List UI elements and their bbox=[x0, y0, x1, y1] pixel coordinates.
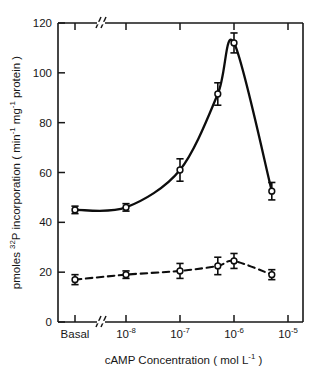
data-point-marker bbox=[123, 204, 129, 210]
data-point-marker bbox=[72, 207, 78, 213]
data-point-marker bbox=[123, 272, 129, 278]
y-tick-label: 80 bbox=[39, 117, 52, 129]
data-point-marker bbox=[231, 40, 237, 46]
y-tick-label: 100 bbox=[33, 67, 52, 79]
data-point-marker bbox=[215, 263, 221, 269]
chart-figure: 020406080100120 Basal10-810-710-610-5 cA… bbox=[0, 0, 322, 375]
y-tick-label: 60 bbox=[39, 167, 52, 179]
data-point-marker bbox=[177, 167, 183, 173]
x-tick-label: Basal bbox=[61, 328, 90, 340]
x-axis-title-text: cAMP Concentration ( mol L-1 ) bbox=[105, 352, 263, 366]
chart-plot-area: 020406080100120 Basal10-810-710-610-5 cA… bbox=[0, 0, 322, 375]
y-axis-title: pmoles 32P incorporation ( min-1 mg-1 pr… bbox=[8, 56, 22, 289]
y-tick-label: 0 bbox=[46, 316, 52, 328]
data-point-marker bbox=[269, 272, 275, 278]
y-tick-label: 40 bbox=[39, 216, 52, 228]
data-point-marker bbox=[215, 91, 221, 97]
y-axis-title-text: pmoles 32P incorporation ( min-1 mg-1 pr… bbox=[8, 56, 22, 289]
data-point-marker bbox=[177, 268, 183, 274]
data-point-marker bbox=[269, 188, 275, 194]
y-tick-label: 120 bbox=[33, 17, 52, 29]
data-point-marker bbox=[231, 258, 237, 264]
y-tick-label: 20 bbox=[39, 266, 52, 278]
x-axis-title: cAMP Concentration ( mol L-1 ) bbox=[105, 352, 263, 366]
data-point-marker bbox=[72, 277, 78, 283]
